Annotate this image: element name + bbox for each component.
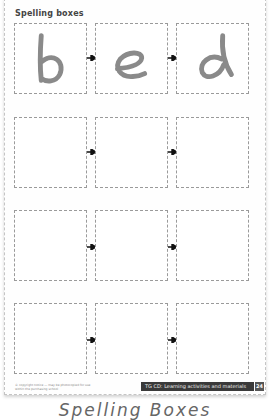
- image-caption: Spelling Boxes: [0, 400, 270, 420]
- spelling-box[interactable]: [95, 210, 168, 281]
- footer-label: TG CD: Learning activities and materials: [141, 382, 254, 391]
- spelling-box: [95, 23, 168, 94]
- spelling-box[interactable]: [14, 210, 87, 281]
- spelling-box[interactable]: [14, 117, 87, 188]
- spelling-box[interactable]: [176, 117, 249, 188]
- spelling-box[interactable]: [176, 303, 249, 374]
- spelling-box[interactable]: [14, 303, 87, 374]
- worksheet-title: Spelling boxes: [15, 9, 84, 18]
- spelling-box: [176, 23, 249, 94]
- copyright-notice: © copyright notice — may be photocopied …: [15, 383, 95, 391]
- spelling-box: [14, 23, 87, 94]
- spelling-box[interactable]: [176, 210, 249, 281]
- handwritten-letter-b: [15, 24, 86, 93]
- spelling-box[interactable]: [95, 303, 168, 374]
- page-number: 24: [255, 382, 264, 391]
- handwritten-letter-e: [96, 24, 167, 93]
- handwritten-letter-d: [177, 24, 248, 93]
- spelling-box[interactable]: [95, 117, 168, 188]
